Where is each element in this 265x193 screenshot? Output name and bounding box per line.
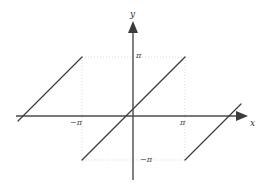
curve-branch-left xyxy=(18,57,82,121)
y-tick-label-neg-pi: −π xyxy=(140,156,152,164)
y-axis-arrowhead xyxy=(128,21,138,33)
plot-canvas xyxy=(0,0,265,193)
x-tick-label-neg-pi: −π xyxy=(70,119,82,127)
y-axis xyxy=(128,21,138,180)
x-axis-label: x xyxy=(250,119,255,128)
x-axis xyxy=(16,111,248,121)
x-axis-arrowhead xyxy=(236,111,248,121)
sawtooth-function-figure: y x π −π −π π xyxy=(0,0,265,193)
y-axis-label: y xyxy=(130,10,135,19)
x-tick-label-pi: π xyxy=(180,119,185,127)
y-tick-label-pi: π xyxy=(136,52,141,60)
sawtooth-curve xyxy=(18,57,241,160)
curve-branch-right xyxy=(185,104,241,160)
